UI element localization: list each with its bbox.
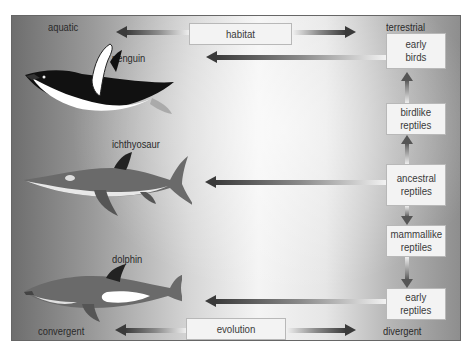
lineage-ancestral-reptiles: ancestral reptiles (386, 164, 446, 206)
lineage-label: early reptiles (400, 291, 431, 317)
convergent-label: convergent (38, 325, 84, 337)
habitat-left-arrow (126, 30, 190, 35)
lineage-early-reptiles: early reptiles (386, 288, 446, 320)
arrow-early-reptiles-to-dolphin (215, 299, 386, 304)
evolution-box: evolution (186, 318, 286, 340)
arrowhead-down-icon (401, 279, 413, 288)
arrowhead-down-icon (401, 216, 413, 225)
lineage-label: mammallike reptiles (390, 228, 442, 254)
ichthyosaur-label: ichthyosaur (112, 138, 160, 150)
habitat-box: habitat (189, 23, 292, 45)
arrow-early-birds-to-penguin (216, 55, 386, 60)
evolution-left-arrow (125, 328, 187, 333)
arrow-mammallike-to-early-reptiles (405, 257, 409, 280)
ichthyosaur-icon (22, 150, 192, 216)
lineage-early-birds: early birds (386, 33, 446, 69)
arrowhead-right-icon (345, 324, 356, 336)
evolution-label: evolution (217, 323, 256, 336)
habitat-label: habitat (226, 28, 255, 41)
lineage-label: ancestral reptiles (396, 172, 435, 198)
arrowhead-left-icon (115, 324, 126, 336)
evolution-right-arrow (286, 328, 346, 333)
lineage-birdlike-reptiles: birdlike reptiles (386, 103, 446, 135)
arrowhead-left-icon (205, 295, 216, 307)
lineage-label: birdlike reptiles (400, 106, 431, 132)
dolphin-icon (22, 262, 182, 322)
penguin-icon (22, 40, 182, 120)
habitat-right-arrow (292, 30, 346, 35)
arrowhead-right-icon (345, 26, 356, 38)
arrowhead-left-icon (116, 26, 127, 38)
arrow-ancestral-to-ichthyosaur (215, 180, 386, 185)
arrowhead-up-icon (401, 135, 413, 144)
arrowhead-left-icon (206, 51, 217, 63)
arrowhead-left-icon (205, 176, 216, 188)
aquatic-label: aquatic (48, 21, 78, 33)
arrow-ancestral-to-mammallike (405, 206, 409, 217)
divergent-label: divergent (383, 325, 421, 337)
lineage-label: early birds (406, 38, 427, 64)
arrowhead-up-icon (401, 72, 413, 81)
arrow-birdlike-to-early-birds (405, 80, 409, 103)
lineage-mammallike-reptiles: mammallike reptiles (386, 225, 446, 257)
arrow-ancestral-to-birdlike (405, 143, 409, 164)
terrestrial-label: terrestrial (386, 21, 425, 33)
